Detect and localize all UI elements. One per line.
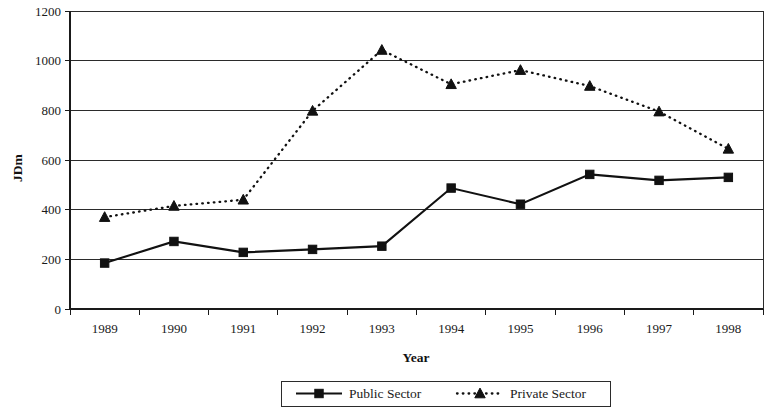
x-tick-label: 1998: [715, 321, 741, 336]
square-marker-icon: [516, 200, 524, 208]
y-axis-ticks: 020040060080010001200: [35, 4, 70, 317]
x-tick-label: 1992: [300, 321, 326, 336]
square-marker-icon: [315, 389, 323, 397]
x-tick-label: 1997: [646, 321, 673, 336]
square-marker-icon: [378, 242, 386, 250]
y-tick-label: 200: [42, 252, 62, 267]
x-tick-label: 1996: [577, 321, 604, 336]
y-tick-label: 1200: [35, 4, 61, 19]
x-tick-label: 1994: [438, 321, 465, 336]
square-marker-icon: [100, 259, 108, 267]
square-marker-icon: [170, 237, 178, 245]
line-chart: 020040060080010001200 198919901991199219…: [0, 0, 771, 413]
square-marker-icon: [308, 245, 316, 253]
legend-label: Public Sector: [349, 386, 422, 401]
x-tick-label: 1993: [369, 321, 395, 336]
x-tick-label: 1990: [161, 321, 187, 336]
y-tick-label: 600: [42, 153, 62, 168]
y-tick-label: 1000: [35, 53, 61, 68]
x-tick-label: 1989: [92, 321, 118, 336]
chart-legend: Public SectorPrivate Sector: [281, 381, 610, 406]
x-tick-label: 1995: [507, 321, 533, 336]
square-marker-icon: [655, 176, 663, 184]
y-tick-label: 0: [55, 302, 62, 317]
legend-label: Private Sector: [510, 386, 587, 401]
square-marker-icon: [239, 248, 247, 256]
x-tick-label: 1991: [230, 321, 256, 336]
y-tick-label: 800: [42, 103, 62, 118]
y-axis-title: JDm: [10, 153, 25, 181]
x-axis-ticks: 1989199019911992199319941995199619971998: [70, 309, 763, 336]
y-tick-label: 400: [42, 202, 62, 217]
square-marker-icon: [724, 173, 732, 181]
chart-container: 020040060080010001200 198919901991199219…: [0, 0, 771, 413]
square-marker-icon: [586, 170, 594, 178]
square-marker-icon: [447, 184, 455, 192]
x-axis-title: Year: [403, 350, 430, 365]
